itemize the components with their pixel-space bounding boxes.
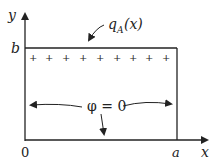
- y-tick-label-b: b: [11, 40, 20, 56]
- svg-text:+: +: [62, 52, 70, 63]
- y-axis-label: y: [7, 7, 17, 23]
- svg-text:A: A: [116, 25, 124, 35]
- svg-text:(x): (x): [124, 16, 143, 32]
- right-arrow: [123, 102, 171, 106]
- svg-text:+: +: [145, 52, 153, 63]
- svg-text:+: +: [113, 52, 121, 63]
- charge-arrow: [89, 25, 104, 40]
- svg-text:+: +: [96, 52, 104, 63]
- svg-text:q: q: [108, 16, 117, 32]
- svg-text:+: +: [162, 52, 170, 63]
- x-axis-label: x: [201, 144, 209, 160]
- charge-marks: + + + + + + + + +: [29, 52, 170, 63]
- svg-text:+: +: [45, 52, 53, 63]
- x-tick-label-a: a: [172, 145, 180, 160]
- svg-text:+: +: [129, 52, 137, 63]
- origin-label: 0: [21, 145, 29, 160]
- svg-text:+: +: [29, 52, 37, 63]
- potential-diagram: y x 0 a b + + + + + + + + + q A (x) φ = …: [0, 0, 221, 161]
- down-arrow: [101, 114, 104, 134]
- svg-text:+: +: [79, 52, 87, 63]
- boundary-condition-label: φ = 0: [87, 98, 126, 114]
- surface-charge-label: q A (x): [108, 16, 143, 35]
- left-arrow: [31, 104, 82, 107]
